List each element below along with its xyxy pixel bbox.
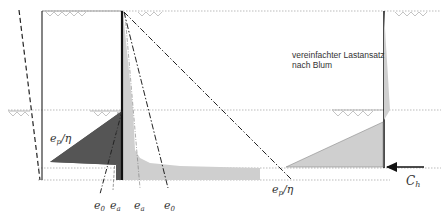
- label-ep-eta-right: ep/η: [272, 183, 294, 197]
- blum-active-area: [384, 12, 390, 120]
- soil-hatch-top-left: [46, 12, 86, 16]
- ch-arrow-head: [386, 162, 397, 172]
- earth-pressure-diagram: vereinfachter Lastansatz nach Blum ep/η …: [0, 0, 441, 215]
- label-ea-mid: ea: [134, 199, 145, 213]
- label-ep-eta-left: ep/η: [50, 132, 72, 146]
- note-line-1: vereinfachter Lastansatz: [292, 50, 385, 60]
- label-e0-left: e0: [94, 199, 106, 213]
- label-e0-mid: e0: [164, 199, 176, 213]
- soil-hatch-excavation-right: [332, 110, 384, 116]
- label-ch: Ch: [406, 174, 420, 189]
- ep-eta-right-line: [124, 12, 292, 180]
- note-line-2: nach Blum: [292, 60, 332, 70]
- soil-hatch-excavation-left: [8, 111, 30, 116]
- label-ea-left: ea: [110, 199, 121, 213]
- soil-hatch-top-mid: [138, 12, 162, 16]
- blum-passive-area: [286, 122, 383, 167]
- active-pressure-light-area: [123, 12, 260, 180]
- soil-hatch-top-right: [395, 12, 427, 16]
- left-dashed-line: [19, 10, 40, 180]
